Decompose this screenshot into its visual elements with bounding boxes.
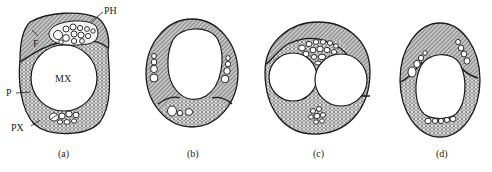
metaxylem-vessel-left [269, 53, 317, 101]
label-f: F [33, 38, 39, 49]
caption-c: (c) [313, 148, 324, 160]
panel-a: PH F MX P PX (a) [6, 0, 120, 160]
panel-d: (d) [395, 15, 490, 160]
label-ph: PH [104, 5, 117, 16]
caption-b: (b) [187, 148, 199, 160]
metaxylem-vessel-right [315, 54, 367, 106]
panel-c: (c) [255, 10, 380, 160]
metaxylem-vessel [416, 55, 465, 119]
caption-d: (d) [436, 148, 448, 160]
label-p: P [6, 87, 12, 98]
label-px: PX [11, 122, 25, 133]
phloem-cluster [49, 21, 98, 45]
label-mx: MX [55, 73, 72, 84]
panel-b: (b) [140, 10, 250, 160]
caption-a: (a) [58, 148, 69, 160]
vascular-bundle-figure: PH F MX P PX (a) [0, 0, 492, 172]
metaxylem-vessel [168, 29, 222, 99]
